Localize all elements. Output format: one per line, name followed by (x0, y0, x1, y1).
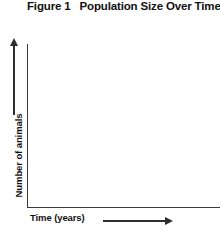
figure-screenshot: Figure 1Population Size Over Time Number… (0, 0, 220, 232)
arrow-right-icon (165, 217, 173, 225)
figure-number: Figure 1 (27, 0, 71, 12)
plot-area (27, 44, 220, 208)
y-axis-direction-line (13, 41, 15, 115)
x-axis-direction-line (103, 220, 167, 222)
figure-title: Figure 1Population Size Over Time (27, 0, 220, 13)
figure-title-text: Population Size Over Time (80, 0, 220, 12)
x-axis-label: Time (years) (30, 212, 85, 224)
y-axis-label: Number of animals (13, 106, 24, 206)
